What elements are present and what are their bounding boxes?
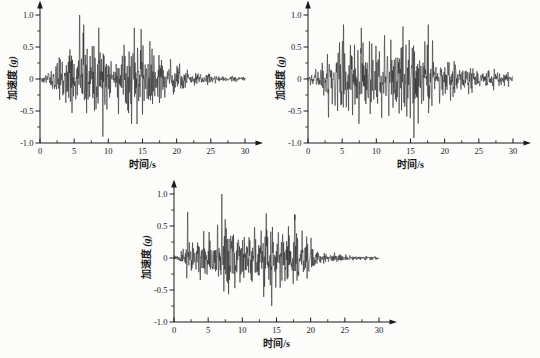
y-axis-arrow-icon [171,180,177,188]
y-tick-label: -0.5 [20,106,33,116]
x-tick-label: 25 [341,325,350,335]
x-tick-label: 10 [238,325,247,335]
waveform-plot-top-left: 1.00.50-0.5-1.0051015202530 [0,0,270,175]
y-axis-label-text: 加速度 [275,70,286,100]
x-axis-arrow-icon [524,140,532,145]
y-tick-label: 0 [297,74,301,84]
y-tick-label: 0 [163,253,167,263]
y-axis-label-text: 加速度 [7,70,18,100]
x-axis-label: 时间/s [40,156,245,171]
y-tick-label: 1.0 [291,10,302,20]
x-tick-label: 5 [206,325,210,335]
y-tick-label: -0.5 [288,106,301,116]
y-tick-label: 1.0 [23,10,34,20]
waveform-plot-bottom-center: 1.00.50-0.5-1.0051015202530 [134,179,404,354]
y-axis-unit: (g) [275,56,286,68]
acceleration-waveform [40,15,245,137]
x-axis-arrow-icon [256,140,264,145]
x-tick-label: 5 [72,146,76,156]
y-tick-label: 0.5 [291,42,302,52]
x-tick-label: 30 [375,325,384,335]
y-tick-label: 1.0 [157,189,168,199]
y-tick-label: 0 [29,74,33,84]
y-tick-label: 0.5 [23,42,34,52]
chart-top-left: 1.00.50-0.5-1.0051015202530 加速度(g) 时间/s [0,0,270,175]
x-axis-label: 时间/s [174,335,379,350]
y-axis-arrow-icon [37,1,43,9]
y-tick-label: -0.5 [154,285,167,295]
x-tick-label: 30 [509,146,518,156]
x-tick-label: 0 [306,146,310,156]
x-tick-label: 20 [172,146,181,156]
y-tick-label: -1.0 [154,317,167,327]
y-axis-label: 加速度(g) [6,8,20,148]
x-tick-label: 10 [104,146,113,156]
x-tick-label: 20 [306,325,315,335]
x-tick-label: 0 [172,325,176,335]
acceleration-waveform [308,25,513,138]
y-axis-label-text: 加速度 [141,249,152,279]
y-tick-label: -1.0 [288,138,301,148]
accelerogram-figure: 1.00.50-0.5-1.0051015202530 加速度(g) 时间/s … [0,0,540,358]
chart-top-right: 1.00.50-0.5-1.0051015202530 加速度(g) 时间/s [268,0,538,175]
y-axis-label: 加速度(g) [140,187,154,327]
x-tick-label: 15 [138,146,147,156]
y-axis-unit: (g) [7,56,18,68]
chart-bottom-center: 1.00.50-0.5-1.0051015202530 加速度(g) 时间/s [134,179,404,354]
y-tick-label: -1.0 [20,138,33,148]
x-tick-label: 5 [340,146,344,156]
x-tick-label: 0 [38,146,42,156]
x-tick-label: 25 [207,146,216,156]
y-axis-unit: (g) [141,235,152,247]
x-axis-arrow-icon [390,319,398,324]
x-tick-label: 30 [241,146,250,156]
x-axis-label: 时间/s [308,156,513,171]
y-tick-label: 0.5 [157,221,168,231]
acceleration-waveform [174,194,379,306]
x-tick-label: 15 [406,146,415,156]
x-tick-label: 10 [372,146,381,156]
x-tick-label: 20 [440,146,449,156]
waveform-plot-top-right: 1.00.50-0.5-1.0051015202530 [268,0,538,175]
x-tick-label: 15 [272,325,281,335]
y-axis-arrow-icon [305,1,311,9]
y-axis-label: 加速度(g) [274,8,288,148]
x-tick-label: 25 [475,146,484,156]
